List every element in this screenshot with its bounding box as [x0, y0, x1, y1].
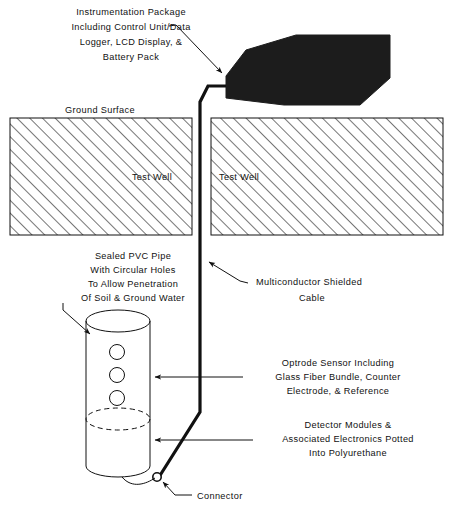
cable-leader-arrow — [209, 262, 248, 283]
pvc-label-line-2: With Circular Holes — [90, 265, 175, 275]
optrode-sensor-label: Optrode Sensor Including Glass Fiber Bun… — [275, 358, 400, 396]
sealed-pvc-pipe-label: Sealed PVC Pipe With Circular Holes To A… — [81, 251, 185, 303]
diagram-canvas: Instrumentation Package Including Contro… — [0, 0, 452, 511]
ground-surface-label: Ground Surface — [65, 105, 135, 115]
instrumentation-label-line-2: Including Control Unit/Data — [71, 22, 191, 32]
instrumentation-leader-arrow — [169, 25, 222, 73]
pvc-label-line-1: Sealed PVC Pipe — [95, 251, 171, 261]
cable-label-line-2: Cable — [299, 293, 325, 303]
pvc-label-line-4: Of Soil & Ground Water — [81, 293, 185, 303]
optrode-label-line-1: Optrode Sensor Including — [282, 358, 395, 368]
detector-label-line-3: Into Polyurethane — [309, 448, 387, 458]
test-well-left-label: Test Well — [132, 172, 172, 182]
water-level-dashed-ellipse — [86, 408, 150, 430]
detector-label-line-1: Detector Modules & — [305, 420, 392, 430]
optrode-label-line-3: Electrode, & Reference — [287, 386, 390, 396]
pipe-hole-1 — [110, 345, 125, 360]
connector-leader-arrow — [163, 482, 192, 495]
instrumentation-label-line-1: Instrumentation Package — [76, 7, 186, 17]
test-well-right-label: Test Well — [219, 172, 259, 182]
instrumentation-label-line-4: Battery Pack — [103, 52, 159, 62]
pipe-hole-3 — [110, 391, 125, 406]
detector-modules-label: Detector Modules & Associated Electronic… — [282, 420, 414, 458]
connector-node — [153, 473, 161, 481]
instrumentation-label-line-3: Logger, LCD Display, & — [80, 37, 183, 47]
pvc-label-line-3: To Allow Penetration — [88, 279, 178, 289]
multiconductor-cable-label: Multiconductor Shielded Cable — [256, 277, 362, 303]
connector-label: Connector — [197, 491, 243, 501]
instrumentation-package-label: Instrumentation Package Including Contro… — [71, 7, 191, 62]
pvc-pipe-cylinder — [86, 310, 155, 484]
instrumentation-package-box — [226, 35, 390, 105]
cable-label-line-1: Multiconductor Shielded — [256, 277, 362, 287]
optrode-well-diagram: Instrumentation Package Including Contro… — [0, 0, 452, 511]
optrode-label-line-2: Glass Fiber Bundle, Counter — [275, 372, 400, 382]
pipe-hole-2 — [110, 368, 125, 383]
detector-label-line-2: Associated Electronics Potted — [282, 434, 414, 444]
